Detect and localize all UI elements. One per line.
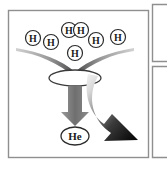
- side-panel-top: [153, 5, 168, 62]
- energy-output-curved-arrow: [87, 74, 138, 141]
- atom-h4: H: [74, 23, 89, 38]
- fusion-diagram-figure: H H H H H H H: [0, 0, 167, 171]
- atom-h6-label: H: [114, 32, 122, 43]
- atom-h7-label: H: [71, 48, 79, 59]
- atom-he-label: He: [68, 130, 82, 142]
- fusion-diagram-canvas: H H H H H H H: [0, 0, 167, 171]
- side-panel-bottom: [153, 67, 168, 158]
- atom-h2: H: [44, 35, 59, 50]
- atom-h6: H: [111, 30, 126, 45]
- matter-output-arrow: [61, 86, 89, 126]
- product-atom-helium: He: [61, 127, 89, 145]
- atom-h7: H: [68, 46, 83, 61]
- atom-h4-label: H: [77, 25, 85, 36]
- atom-h3-label: H: [65, 25, 73, 36]
- atom-h1: H: [26, 31, 41, 46]
- atom-h1-label: H: [29, 33, 37, 44]
- atom-h5-label: H: [92, 35, 100, 46]
- atom-h5: H: [89, 33, 104, 48]
- atom-h2-label: H: [47, 37, 55, 48]
